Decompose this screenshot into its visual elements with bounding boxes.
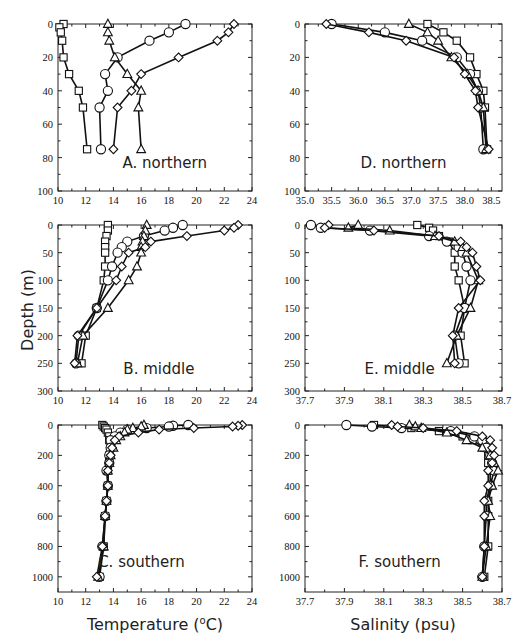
x-tick-label: 14 — [108, 395, 119, 406]
panel-label: B. middle — [123, 360, 194, 378]
x-tick-label: 18 — [164, 395, 175, 406]
x-tick-label: 36.5 — [376, 195, 394, 206]
x-tick-label: 38.3 — [414, 395, 432, 406]
triangle-marker — [103, 28, 112, 36]
series-diamond — [320, 221, 484, 368]
series-diamond — [70, 221, 242, 368]
x-tick-label: 37.9 — [335, 596, 353, 607]
series-square — [56, 20, 91, 152]
y-tick-label: 300 — [284, 386, 300, 397]
panel-c: 101214161820222402004006008001000C. sout… — [32, 420, 258, 607]
x-tick-label: 12 — [80, 596, 91, 607]
circle-marker — [96, 145, 105, 154]
circle-marker — [181, 19, 190, 28]
x-tick-label: 24 — [247, 395, 258, 406]
x-tick-label: 38.5 — [453, 395, 471, 406]
circle-marker — [107, 262, 116, 271]
square-marker — [453, 37, 460, 44]
y-tick-label: 60 — [43, 119, 54, 130]
circle-marker — [101, 70, 110, 79]
y-tick-label: 0 — [295, 420, 300, 431]
profile-line — [75, 225, 239, 363]
x-tick-label: 24 — [247, 195, 258, 206]
x-tick-label: 37.9 — [335, 395, 353, 406]
circle-marker — [418, 36, 427, 45]
panel-a: 1012141618202224020406080100A. northern — [37, 19, 258, 206]
panel-label: F. southern — [358, 553, 440, 571]
y-tick-label: 50 — [290, 248, 301, 259]
y-tick-label: 100 — [37, 275, 53, 286]
x-tick-label: 37.7 — [296, 596, 314, 607]
y-tick-label: 400 — [284, 481, 300, 492]
y-tick-label: 150 — [37, 303, 53, 314]
square-marker — [57, 29, 64, 36]
y-tick-label: 800 — [284, 541, 300, 552]
x-tick-label: 14 — [108, 195, 119, 206]
x-tick-label: 10 — [53, 195, 64, 206]
y-tick-label: 1000 — [279, 572, 300, 583]
y-tick-label: 50 — [43, 248, 54, 259]
y-tick-label: 600 — [284, 511, 300, 522]
y-tick-label: 60 — [290, 119, 301, 130]
circle-marker — [306, 220, 315, 229]
y-tick-label: 200 — [284, 331, 300, 342]
panel-label: E. middle — [364, 360, 434, 378]
x-tick-label: 38.7 — [493, 596, 511, 607]
x-tick-label: 22 — [219, 195, 230, 206]
y-tick-label: 200 — [37, 331, 53, 342]
circle-marker — [164, 28, 173, 37]
square-marker — [102, 249, 109, 256]
circle-marker — [145, 36, 154, 45]
diamond-marker — [230, 20, 239, 29]
diamond-marker — [220, 226, 229, 235]
x-tick-label: 38.1 — [375, 596, 393, 607]
diamond-marker — [137, 70, 146, 79]
y-tick-label: 20 — [290, 52, 301, 63]
series-triangle — [103, 19, 145, 152]
x-tick-label: 37.5 — [429, 195, 447, 206]
x-tick-label: 22 — [219, 395, 230, 406]
x-tick-label: 10 — [53, 395, 64, 406]
x-tick-label: 16 — [136, 395, 147, 406]
circle-marker — [178, 220, 187, 229]
square-marker — [59, 37, 66, 44]
y-tick-label: 200 — [284, 450, 300, 461]
triangle-marker — [442, 359, 451, 367]
diamond-marker — [109, 145, 118, 154]
square-marker — [414, 221, 421, 228]
x-tick-label: 18 — [164, 596, 175, 607]
y-tick-label: 200 — [37, 450, 53, 461]
y-tick-label: 0 — [48, 420, 53, 431]
circle-marker — [367, 422, 376, 431]
x-tick-label: 20 — [191, 395, 202, 406]
square-marker — [84, 146, 91, 153]
square-marker — [60, 54, 67, 61]
x-tick-label: 38.5 — [482, 195, 500, 206]
y-tick-label: 400 — [37, 481, 53, 492]
y-tick-label: 150 — [284, 303, 300, 314]
circle-marker — [103, 86, 112, 95]
square-marker — [466, 54, 473, 61]
y-tick-label: 80 — [43, 153, 54, 164]
triangle-marker — [105, 36, 114, 44]
square-marker — [75, 87, 82, 94]
x-tick-label: 38.3 — [414, 596, 432, 607]
figure-canvas: 1012141618202224020406080100A. northern1… — [0, 0, 527, 642]
y-tick-label: 40 — [43, 86, 54, 97]
x-tick-label: 38.7 — [493, 395, 511, 406]
x-tick-label: 16 — [136, 596, 147, 607]
y-tick-label: 100 — [284, 275, 300, 286]
x-axis-title-salinity: Salinity (psu) — [350, 615, 455, 634]
circle-marker — [342, 420, 351, 429]
y-tick-label: 100 — [284, 186, 300, 197]
y-tick-label: 80 — [290, 153, 301, 164]
series-diamond — [322, 20, 493, 154]
x-tick-label: 16 — [136, 195, 147, 206]
x-axis-title-temperature: Temperature (oC) — [86, 615, 223, 634]
circle-marker — [95, 103, 104, 112]
circle-marker — [113, 248, 122, 257]
triangle-marker — [137, 144, 146, 152]
x-tick-label: 12 — [80, 195, 91, 206]
y-tick-label: 250 — [284, 358, 300, 369]
x-tick-label: 14 — [108, 596, 119, 607]
